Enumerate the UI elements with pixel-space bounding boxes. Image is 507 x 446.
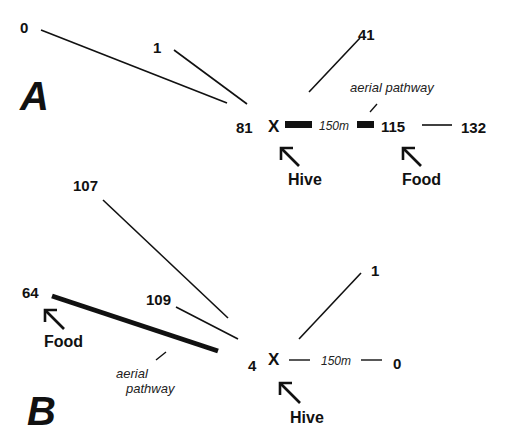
count-a-0: 0: [20, 20, 28, 35]
arrow-b-hive: [280, 383, 300, 403]
count-b-64: 64: [22, 285, 39, 300]
hive-marker-a: X: [268, 118, 279, 135]
hive-marker-b: X: [268, 351, 279, 368]
distance-label-a: 150m: [319, 119, 349, 133]
count-a-41: 41: [358, 27, 375, 42]
line-b-109: [176, 307, 238, 339]
count-b-107: 107: [73, 178, 98, 193]
hive-label-a: Hive: [288, 172, 322, 188]
line-b-1: [299, 273, 361, 339]
pathway-label-a: aerial pathway: [350, 80, 434, 96]
count-b-109: 109: [146, 292, 171, 307]
count-a-132: 132: [461, 120, 486, 135]
count-a-115: 115: [381, 119, 405, 134]
line-a-0: [41, 30, 227, 103]
food-label-b: Food: [44, 334, 83, 350]
bar-a-hive-side: [285, 121, 312, 128]
pathway-label-b-2: pathway: [126, 381, 174, 397]
diagram-lines: [0, 0, 507, 446]
count-b-4: 4: [248, 358, 256, 373]
pathway-pointer-b: [156, 352, 166, 360]
panel-label-b: B: [27, 391, 56, 431]
count-b-1: 1: [371, 263, 379, 278]
arrow-a-hive: [281, 148, 299, 166]
count-a-81: 81: [236, 120, 253, 135]
bar-a-food-side: [357, 121, 374, 128]
pathway-pointer-a: [370, 104, 377, 112]
count-b-0: 0: [393, 356, 401, 371]
arrow-b-food: [45, 310, 64, 329]
panel-label-a: A: [20, 76, 49, 116]
distance-label-b: 150m: [321, 354, 351, 368]
arrow-a-food: [403, 148, 421, 166]
food-label-a: Food: [402, 172, 441, 188]
pathway-label-b-1: aerial: [116, 366, 148, 382]
hive-label-b: Hive: [290, 410, 324, 426]
count-a-1: 1: [153, 40, 161, 55]
